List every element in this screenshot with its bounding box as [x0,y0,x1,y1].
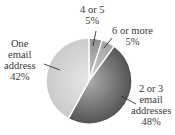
label-one-email-line3: address [4,60,36,71]
label-4-or-5-pct: 5% [80,15,105,26]
label-2-or-3-line1: 2 or 3 [131,83,171,94]
label-4-or-5-name: 4 or 5 [80,4,105,15]
label-one-email-line2: email [4,49,36,60]
label-2-or-3-line2: email [131,94,171,105]
label-one-email-pct: 42% [4,71,36,82]
label-4-or-5: 4 or 5 5% [80,4,105,26]
label-6-or-more-pct: 5% [112,36,153,47]
label-one-email: One email address 42% [4,38,36,82]
label-6-or-more: 6 or more 5% [112,25,153,47]
label-2-or-3-pct: 48% [131,116,171,127]
label-2-or-3-line3: addresses [131,105,171,116]
pie-highlight [46,38,132,124]
label-2-or-3: 2 or 3 email addresses 48% [131,83,171,127]
label-one-email-line1: One [4,38,36,49]
label-6-or-more-name: 6 or more [112,25,153,36]
